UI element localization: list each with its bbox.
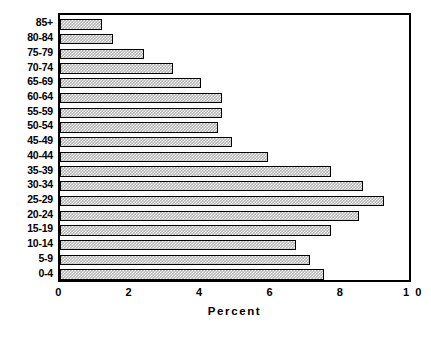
y-axis-label: 55-59 (0, 106, 53, 117)
bar-row (60, 122, 409, 132)
x-axis-tick-label: 4 (196, 286, 204, 298)
y-axis-label: 35-39 (0, 165, 53, 176)
population-percent-bar-chart: 85+80-8475-7970-7465-6960-6455-5950-5445… (0, 0, 431, 338)
y-axis-label: 70-74 (0, 62, 53, 73)
bar-row (60, 196, 409, 206)
bars-layer (60, 15, 409, 280)
bar-40-44 (60, 152, 268, 162)
bar-row (60, 63, 409, 73)
y-axis-label: 75-79 (0, 47, 53, 58)
y-axis-label: 40-44 (0, 150, 53, 161)
bar-row (60, 137, 409, 147)
bar-row (60, 166, 409, 176)
bar-55-59 (60, 108, 222, 118)
y-axis-label: 65-69 (0, 76, 53, 87)
y-axis-label: 85+ (0, 17, 53, 28)
y-axis-label: 30-34 (0, 179, 53, 190)
bar-85plus (60, 19, 102, 29)
bar-row (60, 152, 409, 162)
y-axis-label: 60-64 (0, 91, 53, 102)
x-axis-tick-labels: 024681 0 (0, 286, 431, 302)
x-axis-tick-label: 0 (55, 286, 63, 298)
bar-row (60, 78, 409, 88)
bar-row (60, 108, 409, 118)
bar-45-49 (60, 137, 232, 147)
bar-60-64 (60, 93, 222, 103)
y-axis-label: 0-4 (0, 268, 53, 279)
bar-row (60, 34, 409, 44)
bar-row (60, 49, 409, 59)
bar-row (60, 269, 409, 279)
bar-50-54 (60, 122, 218, 132)
y-axis-category-labels: 85+80-8475-7970-7465-6960-6455-5950-5445… (0, 13, 53, 282)
bar-10-14 (60, 240, 296, 250)
plot-area (58, 13, 411, 282)
x-axis-title: Percent (58, 305, 411, 317)
y-axis-label: 10-14 (0, 238, 53, 249)
bar-0-4 (60, 269, 324, 279)
y-axis-label: 5-9 (0, 253, 53, 264)
x-axis-tick-label: 1 0 (403, 286, 423, 298)
bar-row (60, 240, 409, 250)
y-axis-label: 80-84 (0, 32, 53, 43)
bar-row (60, 93, 409, 103)
x-axis-tick-label: 6 (266, 286, 274, 298)
x-axis-tick-label: 8 (337, 286, 345, 298)
bar-25-29 (60, 196, 384, 206)
bar-row (60, 255, 409, 265)
x-axis-tick-label: 2 (126, 286, 134, 298)
y-axis-label: 50-54 (0, 120, 53, 131)
y-axis-label: 15-19 (0, 223, 53, 234)
y-axis-label: 20-24 (0, 209, 53, 220)
bar-35-39 (60, 166, 331, 176)
bar-80-84 (60, 34, 113, 44)
bar-row (60, 19, 409, 29)
bar-5-9 (60, 255, 310, 265)
bar-65-69 (60, 78, 201, 88)
bar-75-79 (60, 49, 144, 59)
bar-70-74 (60, 63, 173, 73)
y-axis-label: 45-49 (0, 135, 53, 146)
bar-15-19 (60, 225, 331, 235)
y-axis-label: 25-29 (0, 194, 53, 205)
bar-row (60, 211, 409, 221)
bar-30-34 (60, 181, 363, 191)
bar-20-24 (60, 211, 359, 221)
bar-row (60, 181, 409, 191)
bar-row (60, 225, 409, 235)
